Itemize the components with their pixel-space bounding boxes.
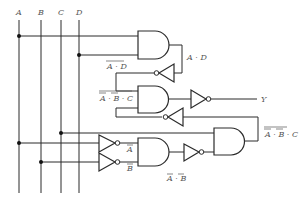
label-and1-out: A · D [186,53,207,62]
inverter-2-bubble [206,97,211,102]
inverter-b-bubble [115,160,120,165]
and-gate-1 [138,31,169,59]
and-gate-2 [138,86,169,113]
inverter-1-bubble [154,71,159,76]
junction-dot-b [39,160,43,164]
inverter-2 [191,90,206,108]
and-gate-4 [138,138,169,166]
label-not-a: A [126,145,133,154]
output-label-y: Y [261,95,267,104]
junction-dot-d [77,53,81,57]
label-inv1-out: A · D [106,62,127,71]
inverter-b [99,153,115,171]
input-label-c: C [58,8,64,17]
input-label-a: A [15,8,22,17]
label-and3-out: A · B · C [264,130,298,139]
inverter-a [99,135,115,152]
junction-dot-a2 [17,141,21,145]
inverter-4-bubble [199,150,204,155]
input-label-b: B [37,8,44,17]
and-gate-3 [214,128,245,155]
inverter-3 [168,108,183,126]
junction-dot-c [59,131,63,135]
inverter-4 [184,144,199,161]
label-not-b: B [126,164,133,173]
input-label-d: D [75,8,83,17]
inverter-1 [159,64,174,82]
label-and4-out: A · B [166,174,186,183]
label-and2-in-top: A · B · C [99,94,133,103]
junction-dot-a1 [17,34,21,38]
logic-circuit-diagram: A B C D A · D A · D A · B · C Y A · B · … [0,0,308,205]
inverter-a-bubble [115,141,120,146]
inverter-3-bubble [163,115,168,120]
